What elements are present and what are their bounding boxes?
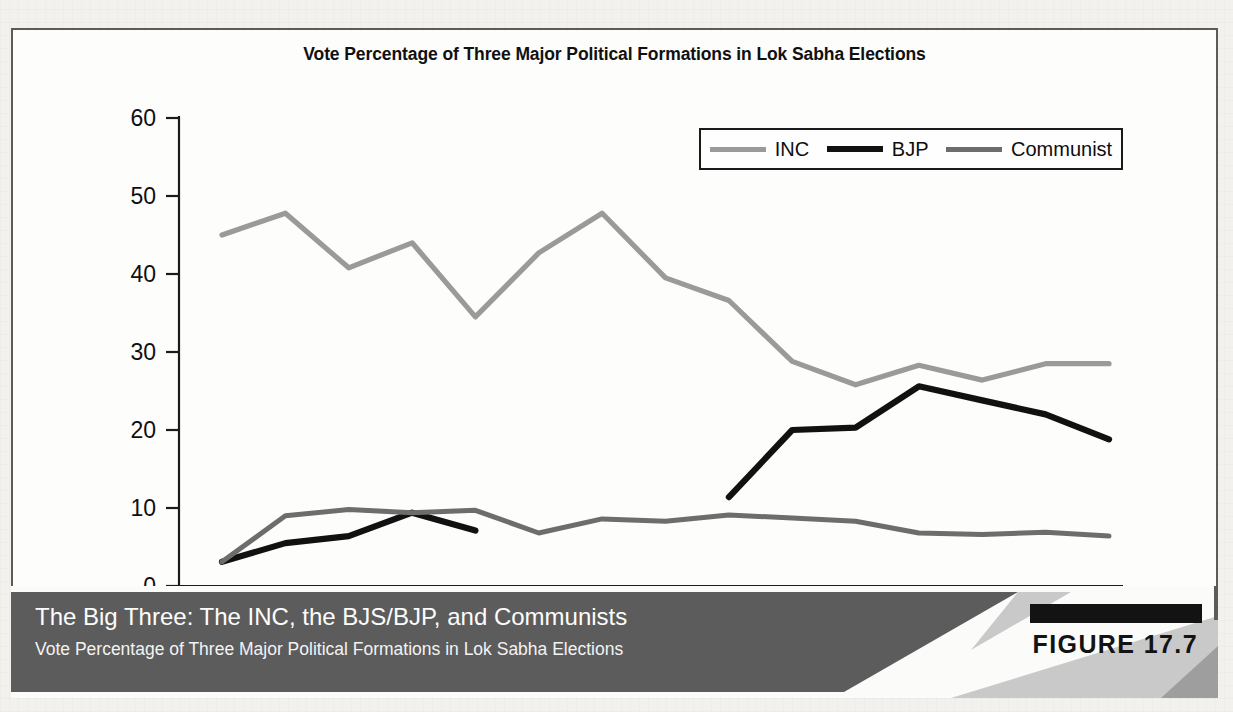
figure-container: Vote Percentage of Three Major Political…	[11, 28, 1220, 698]
svg-text:30: 30	[130, 339, 156, 365]
svg-text:60: 60	[130, 105, 156, 131]
figure-caption-strip: The Big Three: The INC, the BJS/BJP, and…	[11, 586, 1218, 698]
chart-legend: INC BJP Communist	[699, 128, 1123, 170]
legend-swatch-inc	[710, 147, 766, 152]
legend-label-communist: Communist	[1011, 138, 1112, 161]
caption-subtitle: Vote Percentage of Three Major Political…	[35, 634, 755, 664]
figure-badge-bar	[1030, 604, 1202, 623]
chart-panel: Vote Percentage of Three Major Political…	[11, 28, 1218, 586]
svg-text:50: 50	[130, 183, 156, 209]
line-chart-plot: 0102030405060195219571962196719711977198…	[13, 30, 1220, 588]
figure-badge: FIGURE 17.7	[1008, 604, 1204, 659]
svg-text:40: 40	[130, 261, 156, 287]
legend-label-bjp: BJP	[892, 138, 929, 161]
legend-entry-communist: Communist	[946, 138, 1112, 161]
legend-entry-inc: INC	[710, 138, 809, 161]
legend-swatch-bjp	[827, 146, 883, 152]
figure-number-label: FIGURE 17.7	[1008, 630, 1204, 659]
svg-text:10: 10	[130, 495, 156, 521]
legend-label-inc: INC	[775, 138, 809, 161]
caption-text-block: The Big Three: The INC, the BJS/BJP, and…	[35, 600, 755, 664]
legend-entry-bjp: BJP	[827, 138, 929, 161]
legend-swatch-communist	[946, 147, 1002, 152]
caption-title: The Big Three: The INC, the BJS/BJP, and…	[35, 600, 755, 634]
svg-text:20: 20	[130, 417, 156, 443]
